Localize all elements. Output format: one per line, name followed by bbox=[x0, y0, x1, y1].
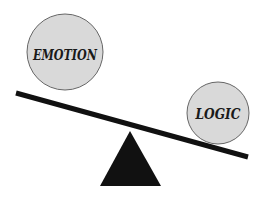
emotion-weight: EMOTION bbox=[27, 14, 103, 90]
logic-label: LOGIC bbox=[195, 106, 241, 122]
logic-weight: LOGIC bbox=[187, 82, 249, 144]
emotion-label: EMOTION bbox=[32, 46, 97, 63]
seesaw-graphic: EMOTION LOGIC bbox=[0, 0, 265, 198]
fulcrum-triangle bbox=[100, 131, 161, 186]
seesaw-diagram: EMOTION LOGIC bbox=[0, 0, 265, 198]
